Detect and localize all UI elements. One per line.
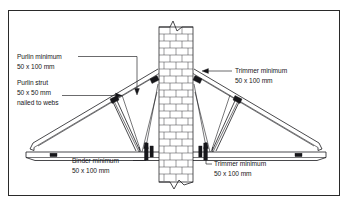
label-trimmer-bottom: Trimmer minimum 50 x 100 mm [214,160,267,177]
brick-wall [159,21,193,189]
binder-label-line1: Binder minimum [72,157,119,164]
purlin-strut-label-line2: 50 x 50 mm [17,89,52,96]
leader-lines [62,57,232,165]
purlin-strut-label-line1: Purlin strut [17,79,48,86]
label-trimmer-top: Trimmer minimum 50 x 100 mm [235,67,288,84]
label-binder: Binder minimum 50 x 100 mm [72,157,119,174]
binder-label-line2: 50 x 100 mm [72,167,110,174]
label-purlin-strut: Purlin strut 50 x 50 mm nailed to webs [17,79,59,106]
purlin-label-line2: 50 x 100 mm [17,63,55,70]
trimmer-bottom-label-line2: 50 x 100 mm [214,170,252,177]
figure-root: Purlin minimum 50 x 100 mm Purlin strut … [0,0,350,210]
trimmer-top-label-line2: 50 x 100 mm [235,77,273,84]
trimmer-left-upper [150,76,159,84]
purlin-label-line1: Purlin minimum [17,53,62,60]
label-purlin: Purlin minimum 50 x 100 mm [17,53,62,70]
purlin-strut-label-line3: nailed to webs [17,99,59,106]
trimmer-right-upper [193,76,202,84]
roof-truss-detail-drawing: Purlin minimum 50 x 100 mm Purlin strut … [0,0,350,210]
trimmer-top-label-line1: Trimmer minimum [235,67,288,74]
trimmer-bottom-label-line1: Trimmer minimum [214,160,267,167]
